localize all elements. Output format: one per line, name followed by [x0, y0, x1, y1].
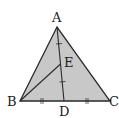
label-c: C: [109, 94, 119, 109]
label-a: A: [51, 10, 62, 25]
tick-ed: [60, 82, 66, 83]
label-d: D: [59, 104, 69, 118]
tick-ae: [56, 44, 62, 45]
triangle-diagram: A B C D E: [0, 0, 119, 118]
label-b: B: [7, 94, 17, 109]
label-e: E: [64, 55, 74, 70]
